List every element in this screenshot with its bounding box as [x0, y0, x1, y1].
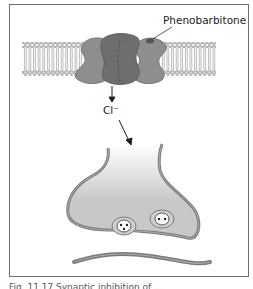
- leader-line: [151, 27, 172, 40]
- synaptic-vesicle-icon: [150, 210, 174, 228]
- gaba-receptor-icon: [75, 34, 166, 85]
- synaptic-vesicle-icon: [112, 217, 136, 235]
- figure-caption: Fig. 11.17 Synaptic inhibition of ...: [9, 283, 163, 289]
- diagram-graphic: [0, 0, 253, 289]
- chloride-ion-label: Cl⁻: [103, 104, 119, 116]
- phenobarbitone-label: Phenobarbitone: [163, 14, 246, 26]
